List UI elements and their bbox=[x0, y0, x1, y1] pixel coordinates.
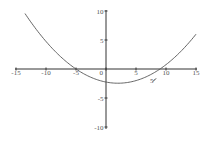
y-tick-label: -5 bbox=[98, 95, 104, 103]
x-tick-label: 10 bbox=[163, 69, 171, 77]
x-tick-label: -10 bbox=[41, 69, 51, 77]
parabola-chart: -15-10-5051015105-5-10 5 bbox=[0, 0, 206, 143]
y-tick-label: -10 bbox=[94, 124, 104, 132]
x-tick-label: 5 bbox=[134, 69, 138, 77]
x-tick-label: 0 bbox=[100, 69, 104, 77]
x-tick-label: -15 bbox=[11, 69, 21, 77]
y-tick-label: 10 bbox=[97, 8, 105, 16]
annotations: 5 bbox=[150, 77, 156, 85]
x-tick-label: 15 bbox=[193, 69, 201, 77]
y-tick-label: 5 bbox=[100, 37, 104, 45]
